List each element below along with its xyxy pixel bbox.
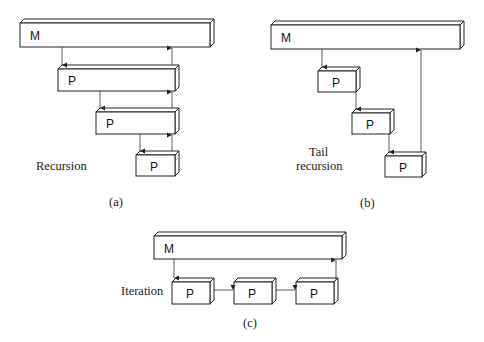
proc-box-label: P bbox=[248, 287, 256, 301]
proc-box-label: P bbox=[68, 74, 76, 88]
caption-b: (b) bbox=[360, 196, 375, 210]
main-box-m: M bbox=[271, 21, 464, 49]
proc-box-p1: P bbox=[318, 67, 360, 92]
proc-box-label: P bbox=[332, 76, 340, 90]
label-recursion: Recursion bbox=[36, 159, 87, 173]
panel-a-recursion: M P P P Recursion (a) bbox=[20, 19, 214, 209]
proc-box-p3: P bbox=[296, 278, 338, 304]
proc-box-label: P bbox=[310, 287, 318, 301]
proc-box-p2: P bbox=[96, 108, 179, 134]
proc-box-p2: P bbox=[234, 278, 276, 304]
main-box-label: M bbox=[30, 29, 40, 43]
proc-box-p1: P bbox=[58, 65, 179, 91]
proc-box-p1: P bbox=[172, 278, 214, 304]
main-box-label: M bbox=[281, 31, 291, 45]
main-box-m: M bbox=[154, 232, 346, 259]
panel-b-tail-recursion: M P P P Tail recursion (b) bbox=[271, 21, 464, 210]
label-iteration: Iteration bbox=[121, 284, 164, 298]
proc-box-p3: P bbox=[385, 152, 426, 177]
proc-box-p3: P bbox=[136, 151, 179, 176]
caption-c: (c) bbox=[243, 316, 257, 330]
proc-box-label: P bbox=[106, 117, 114, 131]
proc-box-p2: P bbox=[352, 109, 394, 134]
proc-box-label: P bbox=[366, 118, 374, 132]
label-recursion: recursion bbox=[296, 159, 343, 173]
proc-box-label: P bbox=[150, 160, 158, 174]
proc-box-label: P bbox=[186, 287, 194, 301]
panel-c-iteration: M P P P Iteration (c) bbox=[121, 232, 346, 330]
caption-a: (a) bbox=[109, 195, 123, 209]
label-tail: Tail bbox=[309, 145, 329, 159]
main-box-label: M bbox=[164, 242, 174, 256]
main-box-m: M bbox=[20, 19, 214, 47]
proc-box-label: P bbox=[399, 161, 407, 175]
